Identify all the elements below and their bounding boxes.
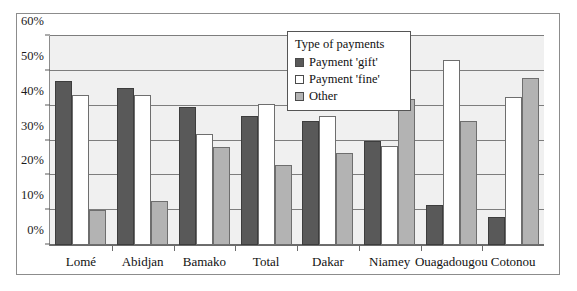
x-axis-label: Cotonou bbox=[491, 254, 536, 270]
y-tick-label: 10% bbox=[21, 188, 44, 203]
x-tick-mark bbox=[235, 245, 236, 251]
legend-label: Other bbox=[309, 89, 337, 104]
x-axis-label: Bamako bbox=[183, 254, 226, 270]
bar bbox=[381, 146, 398, 245]
legend-swatch-icon bbox=[295, 75, 304, 84]
bar bbox=[72, 95, 89, 245]
bar bbox=[302, 121, 319, 245]
bar bbox=[179, 107, 196, 245]
bar bbox=[488, 217, 505, 245]
legend-label: Payment 'fine' bbox=[309, 72, 380, 87]
y-tick-label: 20% bbox=[21, 153, 44, 168]
bar bbox=[196, 134, 213, 245]
x-axis-label: Total bbox=[253, 254, 280, 270]
y-tick-label: 30% bbox=[21, 118, 44, 133]
bar bbox=[275, 165, 292, 245]
bar-group bbox=[50, 36, 112, 245]
y-tick-label: 0% bbox=[27, 223, 44, 238]
bar bbox=[443, 60, 460, 245]
bar bbox=[151, 201, 168, 245]
bar-group bbox=[482, 36, 544, 245]
bar bbox=[258, 104, 275, 245]
chart-legend: Type of payments Payment 'gift'Payment '… bbox=[287, 31, 411, 111]
legend-entries: Payment 'gift'Payment 'fine'Other bbox=[295, 55, 403, 104]
legend-entry: Payment 'fine' bbox=[295, 72, 403, 87]
x-tick-mark bbox=[421, 245, 422, 251]
x-tick-mark bbox=[112, 245, 113, 251]
bar bbox=[241, 116, 258, 245]
bar-group bbox=[112, 36, 174, 245]
legend-label: Payment 'gift' bbox=[309, 55, 378, 70]
x-tick-mark bbox=[297, 245, 298, 251]
bar bbox=[213, 147, 230, 245]
legend-entry: Other bbox=[295, 89, 403, 104]
bar bbox=[55, 81, 72, 245]
x-tick-mark bbox=[359, 245, 360, 251]
x-axis-label: Abidjan bbox=[122, 254, 164, 270]
x-tick-mark bbox=[482, 245, 483, 251]
legend-entry: Payment 'gift' bbox=[295, 55, 403, 70]
chart-figure: 0%10%20%30%40%50%60% LoméAbidjanBamakoTo… bbox=[16, 13, 560, 275]
x-axis-label: Niamey bbox=[369, 254, 410, 270]
x-axis-label: Lomé bbox=[66, 254, 96, 270]
bar-group bbox=[421, 36, 483, 245]
bar bbox=[522, 78, 539, 245]
bar bbox=[460, 121, 477, 245]
legend-swatch-icon bbox=[295, 58, 304, 67]
bar bbox=[319, 116, 336, 245]
bar-group bbox=[174, 36, 236, 245]
bar bbox=[505, 97, 522, 245]
x-axis-label: Dakar bbox=[312, 254, 344, 270]
legend-swatch-icon bbox=[295, 92, 304, 101]
y-tick-label: 50% bbox=[21, 48, 44, 63]
bar bbox=[134, 95, 151, 245]
bar bbox=[398, 99, 415, 245]
y-tick-label: 40% bbox=[21, 83, 44, 98]
bar bbox=[364, 141, 381, 246]
x-tick-mark bbox=[174, 245, 175, 251]
bar bbox=[117, 88, 134, 245]
bar bbox=[426, 205, 443, 245]
bar bbox=[89, 210, 106, 245]
legend-title: Type of payments bbox=[295, 37, 403, 52]
y-tick-label: 60% bbox=[21, 14, 44, 29]
x-axis-label: Ouagadougou bbox=[415, 254, 488, 270]
bar bbox=[336, 153, 353, 245]
